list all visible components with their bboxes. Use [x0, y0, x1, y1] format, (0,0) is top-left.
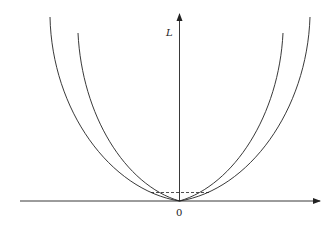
- outer-curve: [50, 17, 310, 201]
- inner-curve: [78, 33, 283, 201]
- diagram-canvas: L 0: [0, 0, 335, 230]
- y-axis-label: L: [165, 27, 173, 38]
- origin-label: 0: [176, 207, 182, 218]
